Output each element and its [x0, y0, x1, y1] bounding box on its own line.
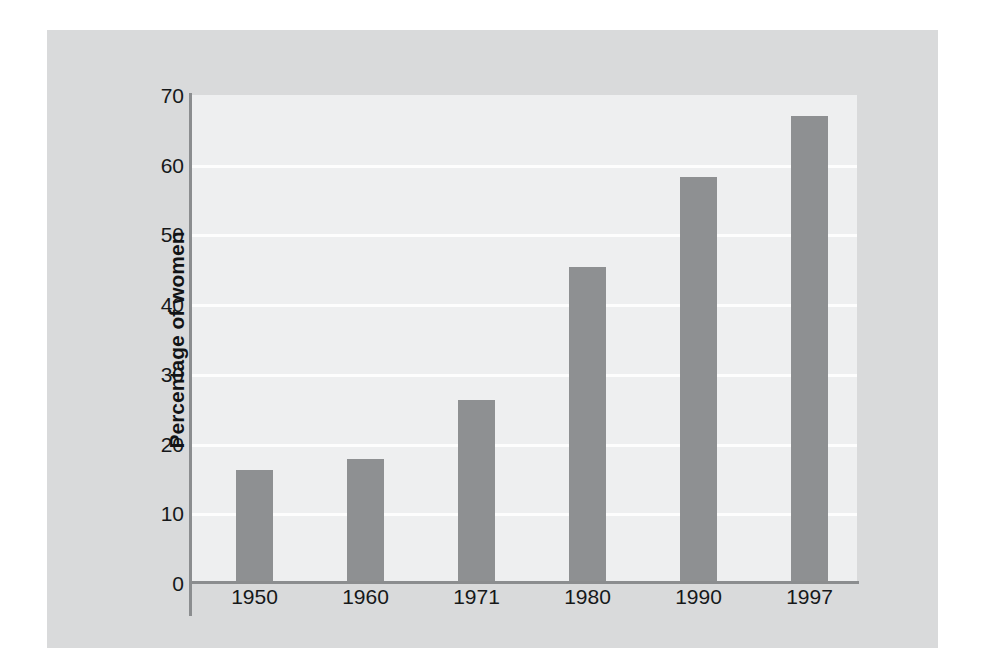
- y-tick-label-60: 60: [124, 154, 184, 175]
- bar-1990[interactable]: [680, 177, 717, 583]
- bar-series: [191, 95, 857, 583]
- chart-panel: 70 60 50 40 30 20 10 0 1950 1960 1971 19…: [47, 30, 938, 648]
- x-tick-label-1950: 1950: [215, 586, 295, 607]
- y-tick-label-10: 10: [124, 503, 184, 524]
- x-tick-label-1971: 1971: [437, 586, 517, 607]
- bar-1971[interactable]: [458, 400, 495, 583]
- x-tick-label-1960: 1960: [326, 586, 406, 607]
- bar-1950[interactable]: [236, 470, 273, 583]
- y-tick-label-70: 70: [124, 85, 184, 106]
- x-tick-label-1990: 1990: [659, 586, 739, 607]
- bar-1997[interactable]: [791, 116, 828, 583]
- x-tick-label-1997: 1997: [770, 586, 850, 607]
- y-axis-line: [189, 93, 192, 616]
- bar-1960[interactable]: [347, 459, 384, 583]
- figure: 70 60 50 40 30 20 10 0 1950 1960 1971 19…: [0, 0, 984, 670]
- y-axis-title-text: Percentage of women: [165, 231, 189, 448]
- y-axis-title: Percentage of women: [165, 210, 189, 470]
- x-axis-line: [189, 581, 859, 584]
- x-axis-ticks: 1950 1960 1971 1980 1990 1997: [191, 586, 857, 626]
- y-tick-label-0: 0: [124, 573, 184, 594]
- bar-1980[interactable]: [569, 267, 606, 584]
- x-tick-label-1980: 1980: [548, 586, 628, 607]
